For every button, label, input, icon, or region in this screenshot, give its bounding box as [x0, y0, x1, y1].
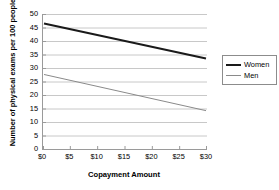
y-tick-label: 20: [18, 91, 38, 98]
y-axis-tick-labels: 05101520253035404550: [18, 14, 38, 149]
plot-svg: [43, 14, 207, 149]
x-tick-label: $0: [27, 153, 57, 160]
y-tick-label: 35: [18, 51, 38, 58]
y-tick-label: 5: [18, 132, 38, 139]
legend-label-women: Women: [244, 61, 269, 68]
x-tick-label: $30: [191, 153, 221, 160]
x-axis-title: Copayment Amount: [42, 170, 206, 179]
legend-line-swatch-men: [226, 75, 241, 76]
legend-item-women: Women: [226, 59, 274, 70]
y-tick-label: 15: [18, 105, 38, 112]
y-tick-label: 50: [18, 10, 38, 17]
series-lines: [44, 23, 206, 110]
y-tick-marks: [43, 15, 46, 150]
y-tick-label: 0: [18, 145, 38, 152]
gridlines: [43, 15, 207, 137]
x-tick-marks: [44, 146, 207, 149]
line-chart: Number of physical exams per 100 people …: [0, 0, 279, 190]
legend-label-men: Men: [244, 72, 258, 79]
x-tick-label: $10: [82, 153, 112, 160]
legend-line-swatch-women: [226, 64, 241, 66]
series-line-men: [44, 74, 206, 110]
chart-legend: Women Men: [222, 55, 277, 85]
legend-item-men: Men: [226, 70, 274, 81]
y-tick-label: 30: [18, 64, 38, 71]
y-tick-label: 10: [18, 118, 38, 125]
y-tick-label: 25: [18, 78, 38, 85]
x-axis-tick-labels: $0$5$10$15$20$25$30: [42, 153, 206, 165]
x-tick-label: $5: [54, 153, 84, 160]
x-tick-label: $20: [136, 153, 166, 160]
y-axis-title: Number of physical exams per 100 people: [8, 0, 17, 148]
y-tick-label: 40: [18, 37, 38, 44]
y-tick-label: 45: [18, 24, 38, 31]
x-tick-label: $25: [164, 153, 194, 160]
plot-area: [42, 14, 207, 150]
x-tick-label: $15: [109, 153, 139, 160]
